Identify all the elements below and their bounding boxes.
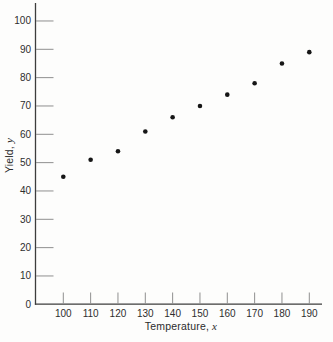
x-tick-label: 160 — [219, 308, 236, 319]
y-tick-label: 10 — [20, 270, 32, 281]
y-tick-label: 50 — [20, 157, 32, 168]
y-tick-label: 30 — [20, 214, 32, 225]
x-tick-label: 190 — [301, 308, 318, 319]
data-point — [280, 61, 285, 66]
y-tick-label: 80 — [20, 72, 32, 83]
scatter-plot-canvas: 0102030405060708090100100110120130140150… — [0, 0, 333, 342]
y-axis-variable: y — [3, 138, 15, 143]
data-point — [88, 158, 93, 163]
x-axis-variable: x — [212, 320, 217, 332]
x-tick-label: 120 — [110, 308, 127, 319]
y-axis-title: Yield,y — [3, 125, 16, 187]
y-axis-title-text: Yield, — [3, 146, 15, 173]
data-point — [307, 50, 312, 55]
y-tick-label: 70 — [20, 100, 32, 111]
x-tick-label: 100 — [55, 308, 72, 319]
x-axis-title-text: Temperature, — [145, 320, 209, 332]
y-tick-label: 100 — [14, 15, 31, 26]
x-tick-label: 110 — [83, 308, 99, 319]
x-tick-label: 180 — [274, 308, 291, 319]
x-axis-title: Temperature,x — [121, 320, 241, 332]
x-tick-label: 130 — [137, 308, 154, 319]
data-point — [116, 149, 121, 154]
data-point — [170, 115, 175, 120]
data-point — [198, 104, 203, 109]
y-tick-label: 20 — [20, 242, 32, 253]
y-tick-label: 40 — [20, 185, 32, 196]
x-tick-label: 150 — [192, 308, 209, 319]
y-tick-label: 90 — [20, 44, 32, 55]
data-point — [252, 81, 257, 86]
y-tick-label: 60 — [20, 129, 32, 140]
data-point — [225, 92, 230, 97]
data-point — [143, 129, 148, 134]
x-tick-label: 140 — [164, 308, 181, 319]
y-tick-label: 0 — [25, 299, 31, 310]
data-point — [61, 175, 66, 180]
x-tick-label: 170 — [246, 308, 263, 319]
figure-page: 0102030405060708090100100110120130140150… — [0, 0, 333, 342]
